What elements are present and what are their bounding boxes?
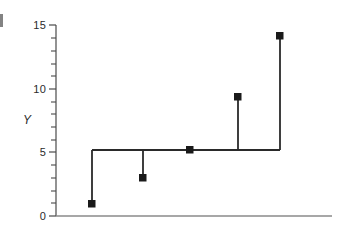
y-tick-label-5: 5	[22, 147, 46, 158]
data-point-marker	[276, 32, 284, 40]
data-point-marker	[234, 93, 242, 101]
y-tick-label-0: 0	[22, 211, 46, 222]
data-step-path	[92, 36, 280, 204]
data-point-marker	[186, 146, 194, 154]
plot-area	[0, 0, 347, 233]
chart-figure: 15 10 5 0 Y	[0, 0, 347, 233]
y-tick-label-10: 10	[22, 84, 46, 95]
y-tick-label-15: 15	[22, 20, 46, 31]
y-axis-minor-ticks	[51, 38, 56, 203]
y-axis-title: Y	[23, 114, 31, 126]
y-axis-major-ticks	[49, 25, 56, 216]
data-point-marker	[88, 200, 96, 208]
data-markers	[88, 32, 284, 208]
data-point-marker	[139, 174, 147, 182]
